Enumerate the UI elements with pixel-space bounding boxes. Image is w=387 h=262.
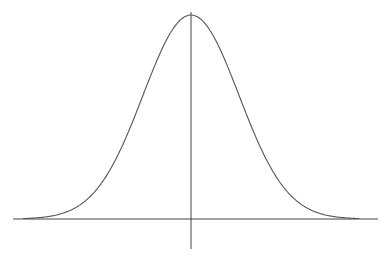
normal-distribution-chart [0,0,387,262]
